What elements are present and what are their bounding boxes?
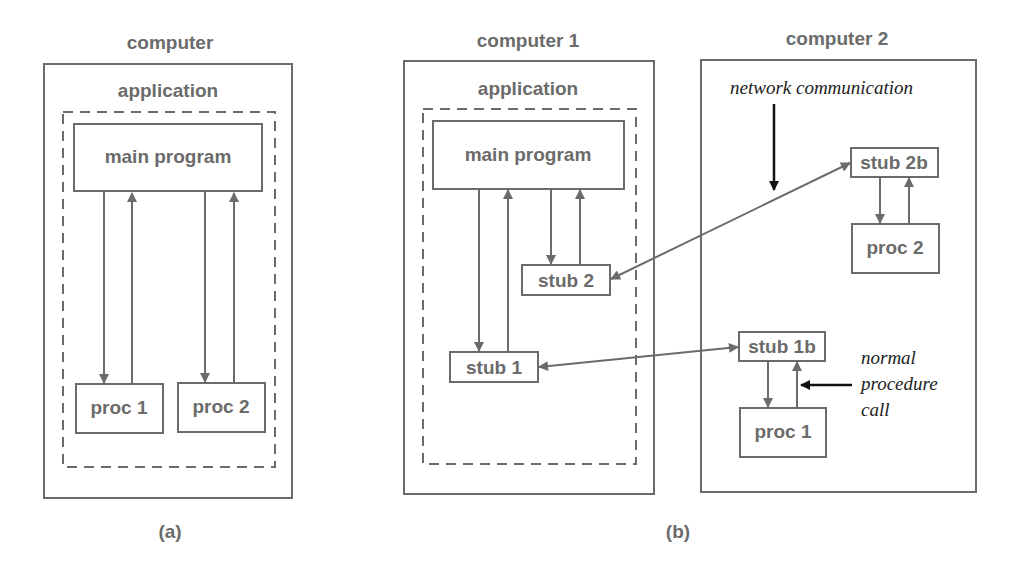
panel-b-computer1: computer 1 application main program stub… <box>404 30 654 494</box>
caption-a: (a) <box>158 521 181 542</box>
stub2-label: stub 2 <box>538 270 594 291</box>
proc1-label: proc 1 <box>90 397 147 418</box>
panel-b-computer2: computer 2 network communication stub 2b… <box>701 28 976 492</box>
application-label: application <box>478 78 578 99</box>
stub1b-label: stub 1b <box>748 336 816 357</box>
stub1-label: stub 1 <box>466 357 522 378</box>
proc2-label: proc 2 <box>192 396 249 417</box>
proc2-label: proc 2 <box>866 237 923 258</box>
link-stub2-stub2b <box>611 163 850 279</box>
application-label: application <box>118 80 218 101</box>
stub2b-label: stub 2b <box>860 152 928 173</box>
panel-a: computer application main program proc 1… <box>44 32 292 542</box>
proc1-label: proc 1 <box>754 421 811 442</box>
computer1-label: computer 1 <box>477 30 580 51</box>
computer-label: computer <box>127 32 214 53</box>
normal-call-note-line3: call <box>861 399 890 420</box>
computer2-label: computer 2 <box>786 28 888 49</box>
network-communication-note: network communication <box>730 77 913 98</box>
link-stub1-stub1b <box>539 347 738 367</box>
rpc-diagram: computer application main program proc 1… <box>0 0 1020 573</box>
diagram-canvas: computer application main program proc 1… <box>0 0 1020 573</box>
caption-b: (b) <box>666 521 690 542</box>
main-program-label: main program <box>105 146 232 167</box>
normal-call-note-line1: normal <box>861 347 916 368</box>
main-program-label: main program <box>465 144 592 165</box>
normal-call-note-line2: procedure <box>859 373 938 394</box>
